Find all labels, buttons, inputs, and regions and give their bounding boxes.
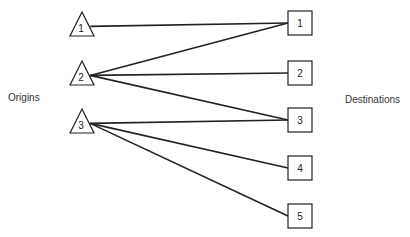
destination-node-4: 4 <box>288 156 312 180</box>
edge-origin-2-to-destination-1 <box>90 23 288 75</box>
destination-node-3: 3 <box>288 108 312 132</box>
origin-destination-diagram: 123 12345 Origins Destinations <box>0 0 410 237</box>
destination-number: 4 <box>297 163 303 174</box>
origins-label: Origins <box>8 92 40 103</box>
origin-node-3: 3 <box>70 109 94 133</box>
origin-number: 3 <box>78 120 84 131</box>
destination-number: 5 <box>297 211 303 222</box>
destination-number: 2 <box>297 68 303 79</box>
destination-node-5: 5 <box>288 204 312 228</box>
destination-number: 1 <box>297 18 303 29</box>
destination-nodes: 12345 <box>288 11 312 228</box>
origin-node-2: 2 <box>70 61 94 85</box>
destination-node-1: 1 <box>288 11 312 35</box>
origin-nodes: 123 <box>70 12 94 133</box>
origin-number: 1 <box>78 23 84 34</box>
edge-origin-1-to-destination-1 <box>90 23 288 26</box>
edge-origin-3-to-destination-4 <box>90 123 288 168</box>
origin-number: 2 <box>78 72 84 83</box>
edge-origin-2-to-destination-2 <box>90 73 288 75</box>
destination-node-2: 2 <box>288 61 312 85</box>
destination-number: 3 <box>297 115 303 126</box>
destinations-label: Destinations <box>345 94 400 105</box>
edge-origin-2-to-destination-3 <box>90 75 288 120</box>
edge-origin-3-to-destination-3 <box>90 120 288 123</box>
edge-origin-3-to-destination-5 <box>90 123 288 216</box>
edges <box>90 23 288 216</box>
origin-node-1: 1 <box>70 12 94 36</box>
